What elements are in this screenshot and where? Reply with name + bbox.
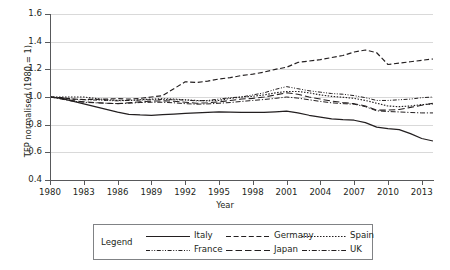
- x-axis-tick: [50, 180, 51, 185]
- y-axis-line: [50, 14, 51, 181]
- y-axis-tick-label: 1.4: [6, 36, 42, 46]
- legend-title: Legend: [101, 237, 133, 247]
- legend-swatch-spain: [302, 235, 346, 237]
- x-axis-tick: [388, 180, 389, 185]
- y-axis-tick: [45, 152, 50, 153]
- series-line-japan: [50, 93, 433, 110]
- y-axis-tick-label: 0.8: [6, 119, 42, 129]
- legend-label: France: [194, 244, 223, 254]
- legend-label: Japan: [274, 244, 298, 254]
- x-axis-title: Year: [0, 200, 450, 210]
- legend-swatch-japan: [226, 249, 270, 251]
- series-line-germany: [50, 50, 433, 100]
- legend-swatch-france: [146, 249, 190, 251]
- legend-swatch-uk: [302, 249, 346, 251]
- y-axis-tick-label: 1.0: [6, 91, 42, 101]
- y-axis-tick: [45, 14, 50, 15]
- y-axis-tick: [45, 125, 50, 126]
- x-axis-tick: [253, 180, 254, 185]
- x-axis-tick: [151, 180, 152, 185]
- legend-swatch-italy: [146, 235, 190, 237]
- y-axis-tick-label: 0.4: [6, 174, 42, 184]
- x-axis-tick: [320, 180, 321, 185]
- series-lines: [50, 14, 433, 180]
- plot-area: [50, 14, 433, 180]
- x-axis-tick: [287, 180, 288, 185]
- x-axis-tick: [84, 180, 85, 185]
- legend-label: Spain: [350, 230, 374, 240]
- x-axis-tick-label: 2013: [402, 187, 442, 197]
- y-axis-tick-label: 0.6: [6, 146, 42, 156]
- legend-label: UK: [350, 244, 362, 254]
- legend-label: Italy: [194, 230, 213, 240]
- x-axis-tick: [118, 180, 119, 185]
- y-axis-tick: [45, 97, 50, 98]
- y-axis-tick-label: 1.6: [6, 8, 42, 18]
- legend-swatch-germany: [226, 235, 270, 237]
- legend-box: Legend ItalyGermanySpainFranceJapanUK: [93, 224, 373, 260]
- y-axis-tick: [45, 69, 50, 70]
- x-axis-tick: [422, 180, 423, 185]
- x-axis-line: [50, 180, 434, 181]
- x-axis-tick: [219, 180, 220, 185]
- x-axis-tick: [185, 180, 186, 185]
- y-axis-tick: [45, 42, 50, 43]
- y-axis-tick-label: 1.2: [6, 63, 42, 73]
- chart-figure: TFP normalised (1980 = 1) 1.61.41.21.00.…: [0, 0, 450, 270]
- x-axis-tick: [354, 180, 355, 185]
